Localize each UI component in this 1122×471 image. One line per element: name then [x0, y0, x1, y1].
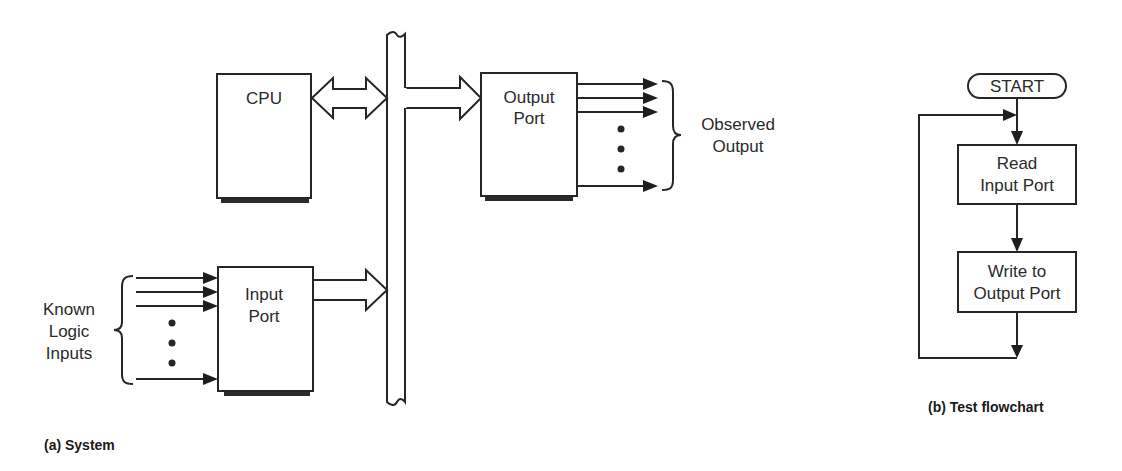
output-port-block: Output Port: [481, 73, 577, 201]
arrowhead-icon: [1011, 345, 1023, 358]
test-flowchart: START Read Input Port Write to Output Po…: [919, 74, 1076, 415]
arrowhead-icon: [643, 180, 658, 192]
system-diagram: CPU Output Port: [43, 32, 775, 453]
arrowhead-icon: [1011, 131, 1023, 145]
arrowhead-icon: [643, 92, 658, 104]
arrowhead-icon: [1011, 238, 1023, 252]
read-step-label-line1: Read: [997, 154, 1038, 173]
arrowhead-icon: [203, 300, 218, 312]
ellipsis-dot: [169, 360, 176, 367]
read-input-step: Read Input Port: [958, 145, 1076, 204]
observed-output-label-line1: Observed: [701, 115, 775, 134]
output-lines: [577, 78, 658, 192]
arrowhead-icon: [203, 272, 218, 284]
output-port-label-line2: Port: [513, 109, 544, 128]
input-port-label-line1: Input: [245, 285, 283, 304]
input-port-block: Input Port: [218, 267, 313, 396]
input-to-bus-arrow: [313, 270, 387, 310]
output-port-label-line1: Output: [503, 88, 554, 107]
ellipsis-dot: [169, 340, 176, 347]
arrowhead-icon: [643, 78, 658, 90]
flowchart-caption: (b) Test flowchart: [928, 399, 1044, 415]
input-port-label-line2: Port: [248, 307, 279, 326]
known-inputs-label-line1: Known: [43, 300, 95, 319]
arrowhead-icon: [643, 106, 658, 118]
bus-to-output-arrow: [405, 77, 481, 119]
start-label: START: [990, 77, 1044, 96]
arrowhead-icon: [203, 286, 218, 298]
ellipsis-dot: [618, 146, 625, 153]
write-output-step: Write to Output Port: [958, 252, 1076, 312]
arrowhead-icon: [1003, 109, 1017, 121]
ellipsis-dot: [618, 126, 625, 133]
ellipsis-dot: [169, 320, 176, 327]
diagram-canvas: CPU Output Port: [0, 0, 1122, 471]
cpu-bus-double-arrow: [312, 78, 387, 118]
write-step-label-line2: Output Port: [974, 284, 1061, 303]
input-lines: [136, 272, 218, 385]
known-inputs-brace: [114, 276, 133, 384]
observed-output-label-line2: Output: [712, 137, 763, 156]
read-step-label-line2: Input Port: [980, 176, 1054, 195]
known-inputs-label-line2: Logic: [49, 322, 90, 341]
known-inputs-label-line3: Inputs: [46, 344, 92, 363]
system-caption: (a) System: [44, 437, 115, 453]
start-terminator: START: [968, 74, 1066, 98]
write-step-label-line1: Write to: [988, 262, 1046, 281]
cpu-label: CPU: [246, 89, 282, 108]
ellipsis-dot: [618, 166, 625, 173]
observed-output-brace: [662, 81, 681, 190]
system-bus: [387, 32, 405, 405]
arrowhead-icon: [203, 373, 218, 385]
cpu-block: CPU: [217, 74, 311, 203]
